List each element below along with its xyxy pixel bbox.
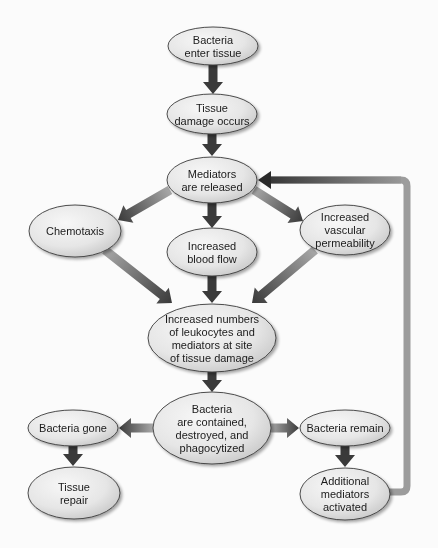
arrow-vascular-to-leukocytes: [252, 247, 318, 303]
node-label-line: of leukocytes and: [169, 326, 255, 338]
node-label-line: permeability: [315, 237, 375, 249]
node-label-line: blood flow: [187, 253, 237, 265]
node-label-line: Bacteria: [193, 34, 234, 46]
node-label-line: enter tissue: [185, 47, 242, 59]
node-label-line: Increased: [321, 211, 369, 223]
node-label-line: are contained,: [177, 416, 247, 428]
arrow-remain-to-additional: [335, 446, 355, 467]
arrow-mediators-to-bloodflow: [202, 203, 222, 228]
node-bacteria-enter-tissue: Bacteriaenter tissue: [168, 27, 258, 65]
node-increased-leukocytes-mediators: Increased numbersof leukocytes andmediat…: [148, 304, 276, 372]
node-label-line: repair: [60, 494, 88, 506]
arrow-leukocytes-to-contained: [202, 372, 222, 392]
feedback-loop-additional-to-mediators-top-segment: [270, 177, 401, 184]
arrow-damage-to-mediators: [202, 134, 222, 156]
node-label-line: Tissue: [58, 481, 90, 493]
node-label-line: mediators: [321, 488, 370, 500]
node-label-line: Additional: [321, 475, 369, 487]
node-label-line: are released: [181, 181, 242, 193]
node-label-line: damage occurs: [174, 115, 250, 127]
diagram-canvas: Bacteriaenter tissueTissuedamage occursM…: [0, 0, 438, 548]
node-label-line: Increased: [188, 240, 236, 252]
node-label-line: phagocytized: [180, 442, 245, 454]
node-label-line: of tissue damage: [170, 352, 254, 364]
node-label-line: Chemotaxis: [46, 225, 105, 237]
node-label-line: Bacteria gone: [39, 422, 107, 434]
arrow-enter-to-damage: [203, 65, 223, 94]
arrow-contained-to-gone: [119, 418, 153, 438]
arrow-gone-to-repair: [63, 446, 83, 466]
node-bacteria-gone: Bacteria gone: [28, 410, 118, 446]
node-label-line: Increased numbers: [165, 313, 260, 325]
arrow-mediators-to-vascular: [252, 186, 303, 223]
node-tissue-repair: Tissuerepair: [28, 467, 120, 519]
inflammation-flowchart: Bacteriaenter tissueTissuedamage occursM…: [0, 0, 438, 548]
arrow-contained-to-remain: [271, 418, 299, 438]
node-mediators-released: Mediatorsare released: [167, 157, 257, 203]
arrow-chemotaxis-to-leukocytes: [102, 246, 172, 303]
node-label-line: Bacteria remain: [306, 422, 383, 434]
node-tissue-damage-occurs: Tissuedamage occurs: [167, 94, 257, 134]
arrow-bloodflow-to-leukocytes: [202, 276, 222, 303]
node-bacteria-remain: Bacteria remain: [300, 410, 390, 446]
node-increased-blood-flow: Increasedblood flow: [167, 228, 257, 276]
node-chemotaxis: Chemotaxis: [29, 205, 121, 257]
nodes-layer: Bacteriaenter tissueTissuedamage occursM…: [28, 27, 390, 520]
feedback-arrowhead-icon: [258, 171, 271, 189]
node-label-line: vascular: [325, 224, 366, 236]
node-additional-mediators-activated: Additionalmediatorsactivated: [300, 468, 390, 520]
node-label-line: mediators at site: [172, 339, 253, 351]
arrow-mediators-to-chemotaxis: [118, 186, 172, 223]
node-label-line: Tissue: [196, 102, 228, 114]
node-increased-vascular-permeability: Increasedvascularpermeability: [300, 205, 390, 255]
node-label-line: activated: [323, 501, 367, 513]
node-bacteria-contained: Bacteriaare contained,destroyed, andphag…: [153, 392, 271, 464]
node-label-line: destroyed, and: [176, 429, 249, 441]
node-label-line: Bacteria: [192, 403, 233, 415]
node-label-line: Mediators: [188, 168, 237, 180]
